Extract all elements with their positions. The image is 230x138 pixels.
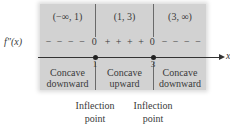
interval-label: (1, 3) [96,11,153,22]
sign-positive: + + + + [102,36,148,47]
inflection-point-label: Inflection point [70,99,120,125]
inflection-line: point [70,112,120,125]
concavity-label: Concave upward [96,67,153,89]
axis-arrow-icon [219,54,225,60]
axis-x-label: x [226,50,230,61]
concavity-label: Concave downward [154,67,206,89]
interval-label: (3, ∞) [154,11,206,22]
second-derivative-label: f″(x) [4,36,22,47]
zero-value: 0 [90,36,100,47]
zero-value: 0 [148,36,158,47]
sign-negative: − − − − [160,36,204,47]
concavity-label: Concave downward [40,67,95,89]
sign-negative: − − − − [44,36,88,47]
inflection-point-label: Inflection point [128,99,178,125]
inflection-line: Inflection [128,99,178,112]
concavity-line: upward [96,78,153,89]
interval-label: (−∞, 1) [40,11,95,22]
concavity-line: Concave [96,67,153,78]
concavity-line: Concave [154,67,206,78]
concavity-line: Concave [40,67,95,78]
concavity-line: downward [40,78,95,89]
inflection-line: Inflection [70,99,120,112]
concavity-line: downward [154,78,206,89]
number-line-axis [38,57,221,58]
inflection-line: point [128,112,178,125]
